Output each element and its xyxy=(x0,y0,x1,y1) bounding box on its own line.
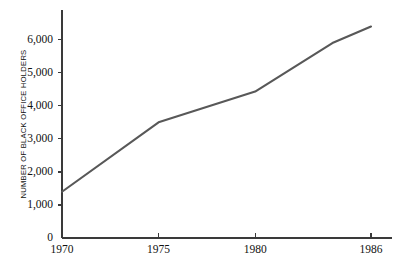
y-tick-label: 4,000 xyxy=(27,99,53,112)
y-tick-label: 0 xyxy=(47,231,53,243)
y-tick-label: 5,000 xyxy=(27,66,53,79)
y-tick-label: 1,000 xyxy=(27,198,53,211)
y-axis-title: NUMBER OF BLACK OFFICE HOLDERS xyxy=(19,50,28,199)
line-chart: 01,0002,0003,0004,0005,0006,000 19701975… xyxy=(0,0,407,265)
y-tick-label: 6,000 xyxy=(27,33,53,46)
x-tick-label: 1986 xyxy=(360,243,383,255)
x-tick-label: 1970 xyxy=(51,243,74,255)
y-tick-label: 2,000 xyxy=(27,165,53,178)
chart-container: 01,0002,0003,0004,0005,0006,000 19701975… xyxy=(0,0,407,265)
x-tick-label: 1975 xyxy=(147,243,170,255)
y-tick-label: 3,000 xyxy=(27,132,53,145)
x-tick-label: 1980 xyxy=(244,243,267,255)
